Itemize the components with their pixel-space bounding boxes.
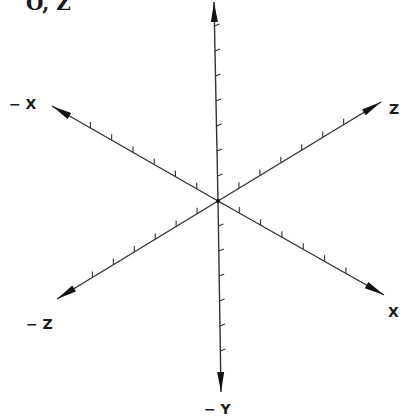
axes-drawing [0, 0, 414, 419]
axis-label-pos-z: Z [389, 102, 399, 116]
tick-mark [220, 349, 225, 351]
axis-label-pos-x: X [388, 305, 399, 319]
axis-label-neg-z: − Z [26, 317, 53, 331]
tick-mark [219, 274, 224, 276]
tick-mark [216, 124, 221, 126]
tick-mark [217, 174, 222, 176]
arrowhead-icon-pos-y [211, 2, 218, 22]
tick-mark [216, 99, 221, 101]
arrowhead-icon-neg-y [217, 372, 224, 392]
axis-line-pos-z [218, 102, 381, 201]
tick-mark [215, 49, 220, 51]
arrowhead-icon-pos-z [362, 102, 381, 115]
origin-point [216, 199, 220, 203]
arrowhead-icon-neg-x [52, 106, 71, 119]
axis-label-neg-y: − Y [204, 402, 231, 416]
title-fragment: O, Z [26, 0, 71, 13]
axis-line-pos-y [214, 2, 218, 201]
tick-mark [218, 224, 223, 226]
tick-mark [214, 24, 219, 26]
tick-mark [219, 249, 224, 251]
axis-line-neg-z [57, 201, 218, 299]
axis-line-neg-x [52, 106, 218, 201]
tick-mark [215, 74, 220, 76]
axis-line-neg-y [218, 201, 221, 392]
tick-mark [220, 324, 225, 326]
tick-mark [217, 149, 222, 151]
3d-axes-diagram: O, Z − X Z − Z X − Y [0, 0, 414, 419]
axis-line-pos-x [218, 201, 384, 295]
arrowhead-icon-pos-x [365, 282, 384, 295]
axis-label-neg-x: − X [9, 97, 36, 111]
tick-mark [220, 299, 225, 301]
arrowhead-icon-neg-z [57, 286, 76, 299]
